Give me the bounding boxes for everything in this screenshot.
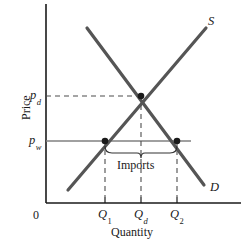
- marker-q2: [174, 138, 181, 145]
- x-tick-label-q2: Q2: [170, 208, 183, 223]
- q2-main: Q: [170, 207, 179, 221]
- imports-label: Imports: [117, 159, 154, 171]
- y-tick-label-pw: pw: [29, 134, 41, 149]
- origin-label: 0: [33, 209, 39, 221]
- qd-sub: d: [144, 216, 148, 226]
- x-tick-label-qd: Qd: [134, 208, 147, 223]
- marker-q1: [102, 138, 109, 145]
- pd-sub: d: [37, 97, 41, 107]
- pd-main: p: [30, 88, 36, 102]
- x-tick-label-q1: Q1: [98, 208, 111, 223]
- pw-sub: w: [36, 142, 42, 152]
- demand-curve-label: D: [210, 181, 219, 194]
- q1-main: Q: [98, 207, 107, 221]
- qd-main: Q: [134, 207, 143, 221]
- q2-sub: 2: [180, 216, 184, 226]
- pw-main: p: [29, 133, 35, 147]
- q1-sub: 1: [108, 216, 112, 226]
- marker-equilibrium: [138, 93, 145, 100]
- y-tick-label-pd: pd: [30, 89, 41, 104]
- x-axis-title: Quantity: [111, 226, 153, 238]
- supply-curve-label: S: [208, 15, 214, 28]
- supply-demand-figure: Price pd pw 0 Q1 Qd Q2 Quantity S D Impo…: [0, 0, 246, 252]
